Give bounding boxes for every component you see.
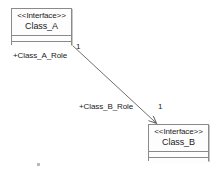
uml-class-box-class-b[interactable]: <<Interface>> Class_B bbox=[148, 124, 209, 161]
stray-speck-artifact bbox=[37, 163, 40, 166]
uml-class-box-class-a[interactable]: <<Interface>> Class_A bbox=[11, 8, 72, 45]
target-multiplicity-label[interactable]: 1 bbox=[158, 102, 162, 111]
source-role-label[interactable]: +Class_A_Role bbox=[13, 51, 67, 61]
uml-class-name-class-a: Class_A bbox=[12, 21, 71, 32]
uml-stereotype-class-b: <<Interface>> bbox=[149, 127, 208, 137]
uml-operations-compartment-class-a bbox=[12, 42, 71, 48]
uml-stereotype-class-a: <<Interface>> bbox=[12, 11, 71, 21]
uml-operations-compartment-class-b bbox=[149, 158, 208, 164]
source-multiplicity-label[interactable]: 1 bbox=[76, 42, 80, 51]
uml-class-header-class-b: <<Interface>> Class_B bbox=[149, 125, 208, 152]
uml-class-header-class-a: <<Interface>> Class_A bbox=[12, 9, 71, 36]
uml-diagram-canvas: <<Interface>> Class_A <<Interface>> Clas… bbox=[0, 0, 223, 175]
uml-class-name-class-b: Class_B bbox=[149, 137, 208, 148]
target-role-label[interactable]: +Class_B_Role bbox=[79, 102, 133, 112]
